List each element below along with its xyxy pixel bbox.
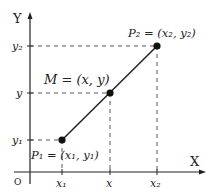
tick-label-x1: x₁ <box>56 177 67 190</box>
point-p1 <box>58 136 65 143</box>
tick-label-x: x <box>106 177 113 190</box>
tick-label-y: y <box>15 87 23 100</box>
label-p2: P₂ = (x₂, y₂) <box>127 26 196 40</box>
tick-label-y2: y₂ <box>11 40 23 53</box>
tick-label-x2: x₂ <box>150 177 161 190</box>
y-axis-label: Y <box>12 11 22 26</box>
x-axis-label: X <box>190 154 200 169</box>
origin-label: O <box>14 177 21 187</box>
label-m: M = (x, y) <box>43 72 110 87</box>
label-p1: P₁ = (x₁, y₁) <box>30 148 99 162</box>
tick-label-y1: y₁ <box>11 134 23 147</box>
point-m <box>106 89 113 96</box>
point-p2 <box>153 42 160 49</box>
midpoint-diagram: Y X O y₂ y y₁ x₁ x x₂ P₂ = (x₂, y₂) M = … <box>0 0 212 192</box>
